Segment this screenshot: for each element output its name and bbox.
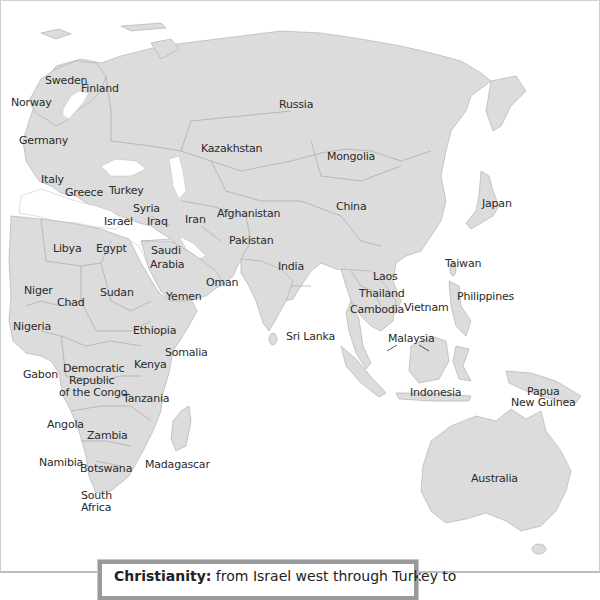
label-namibia: Namibia <box>39 457 83 469</box>
label-zambia: Zambia <box>87 430 128 442</box>
label-kazakhstan: Kazakhstan <box>201 143 262 155</box>
label-angola: Angola <box>47 419 84 431</box>
label-yemen: Yemen <box>166 291 201 303</box>
label-laos: Laos <box>373 271 398 283</box>
label-saudi-2: Arabia <box>150 259 184 271</box>
label-iraq: Iraq <box>147 216 168 228</box>
label-norway: Norway <box>11 97 52 109</box>
caption-box: Christianity: from Israel west through T… <box>98 560 418 600</box>
label-greece: Greece <box>65 187 103 199</box>
label-finland: Finland <box>81 83 119 95</box>
label-gabon: Gabon <box>23 369 58 381</box>
label-south-africa-2: Africa <box>81 502 111 514</box>
kamchatka-landmass <box>486 76 526 131</box>
label-china: China <box>336 201 366 213</box>
label-ethiopia: Ethiopia <box>133 325 176 337</box>
label-afghanistan: Afghanistan <box>217 208 280 220</box>
label-egypt: Egypt <box>96 243 127 255</box>
caption-description: from Israel west through Turkey to <box>211 568 456 584</box>
map-frame: Sweden Finland Norway Russia Germany Kaz… <box>0 0 600 573</box>
label-israel: Israel <box>104 216 133 228</box>
label-oman: Oman <box>206 277 238 289</box>
sulawesi-landmass <box>453 346 471 381</box>
caption-text: Christianity: from Israel west through T… <box>114 568 402 584</box>
label-libya: Libya <box>53 243 81 255</box>
label-drc-3: of the Congo <box>59 387 127 399</box>
label-thailand: Thailand <box>359 288 405 300</box>
label-somalia: Somalia <box>165 347 208 359</box>
label-iran: Iran <box>185 214 206 226</box>
arctic-islands-2 <box>121 23 166 31</box>
label-germany: Germany <box>19 135 68 147</box>
label-philippines: Philippines <box>457 291 514 303</box>
label-taiwan: Taiwan <box>445 258 481 270</box>
label-vietnam: Vietnam <box>404 302 448 314</box>
label-botswana: Botswana <box>80 463 132 475</box>
tasmania-landmass <box>532 544 546 554</box>
australia-landmass <box>421 409 571 531</box>
label-tanzania: Tanzania <box>123 393 169 405</box>
label-nigeria: Nigeria <box>13 321 51 333</box>
label-turkey: Turkey <box>109 185 144 197</box>
label-cambodia: Cambodia <box>350 304 404 316</box>
label-russia: Russia <box>279 99 313 111</box>
label-malaysia: Malaysia <box>388 333 434 345</box>
label-saudi-1: Saudi <box>151 245 181 257</box>
label-mongolia: Mongolia <box>327 151 375 163</box>
label-sudan: Sudan <box>100 287 134 299</box>
label-kenya: Kenya <box>134 359 167 371</box>
malaysia-arrow-left <box>387 345 397 351</box>
label-japan: Japan <box>482 198 512 210</box>
caption-religion: Christianity: <box>114 568 211 584</box>
label-australia: Australia <box>471 473 518 485</box>
label-italy: Italy <box>41 174 64 186</box>
label-chad: Chad <box>57 297 85 309</box>
arctic-islands <box>41 29 71 39</box>
label-madagascar: Madagascar <box>145 459 210 471</box>
label-india: India <box>278 261 304 273</box>
label-indonesia: Indonesia <box>410 387 461 399</box>
label-sri-lanka: Sri Lanka <box>286 331 335 343</box>
label-pakistan: Pakistan <box>229 235 273 247</box>
label-niger: Niger <box>24 285 53 297</box>
label-syria: Syria <box>133 203 160 215</box>
sri-lanka-landmass <box>269 333 277 345</box>
madagascar-landmass <box>171 406 191 451</box>
label-papua-2: New Guinea <box>511 397 576 409</box>
